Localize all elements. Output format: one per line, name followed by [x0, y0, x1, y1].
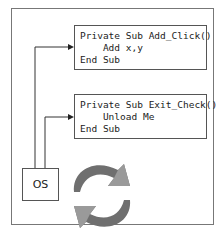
- cycle-arrows-icon: [74, 164, 130, 228]
- os-box: OS: [22, 168, 59, 201]
- os-label: OS: [33, 178, 49, 191]
- connector-arrows: [0, 0, 224, 238]
